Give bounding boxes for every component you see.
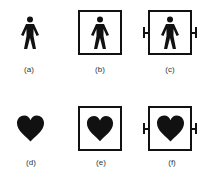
heart-icon [16, 114, 45, 144]
person-icon [90, 16, 110, 50]
panel-label: (e) [86, 158, 116, 167]
heart-icon [86, 115, 114, 143]
defib-tab-right [195, 123, 197, 134]
person-icon [20, 16, 40, 50]
panel-label: (b) [85, 65, 115, 74]
person-icon [160, 16, 180, 50]
panel-label: (c) [155, 65, 185, 74]
defib-tab-right [195, 27, 197, 38]
panel-label: (d) [16, 158, 46, 167]
panel-label: (f) [157, 158, 187, 167]
heart-icon [156, 114, 185, 144]
panel-label: (a) [14, 65, 44, 74]
